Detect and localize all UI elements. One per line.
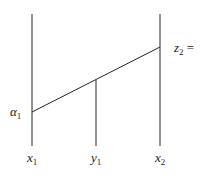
alpha-1-label: α1 <box>10 105 21 121</box>
x-1-label: x1 <box>27 151 37 167</box>
alpha-sub: 1 <box>17 111 22 121</box>
alpha-base: α <box>10 104 17 119</box>
x2-sub: 2 <box>161 157 166 167</box>
x1-sub: 1 <box>33 157 38 167</box>
x-2-label: x2 <box>155 151 165 167</box>
y-1-label: y1 <box>91 151 101 167</box>
y1-sub: 1 <box>97 157 102 167</box>
z-suffix: = <box>184 40 195 55</box>
z-2-label: z2 = <box>174 41 194 57</box>
